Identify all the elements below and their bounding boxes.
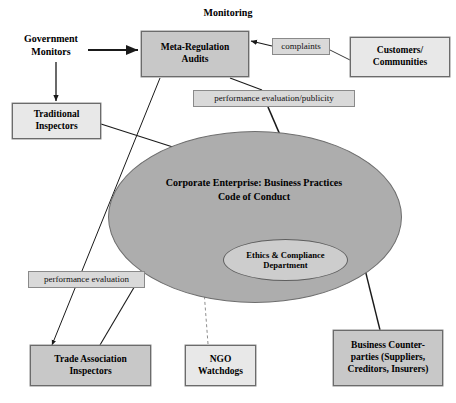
node-meta-regulation-audits[interactable]: Meta-RegulationAudits: [141, 31, 249, 77]
corporate-enterprise-label: Corporate Enterprise: Business Practices…: [120, 176, 388, 203]
ethics-compliance-department-ellipse: Ethics & ComplianceDepartment: [223, 239, 348, 281]
edge-label-performance-evaluation-publicity: performance evaluation/publicity: [193, 90, 355, 107]
edge-label-complaints: complaints: [272, 38, 330, 55]
diagram-title: Monitoring: [170, 4, 286, 20]
node-ngo-watchdogs[interactable]: NGOWatchdogs: [185, 345, 256, 386]
edge-meta-regulation-audits-to-corporate-enterprise-upper: [230, 78, 262, 90]
node-business-counterparties[interactable]: Business Counter-parties (Suppliers,Cred…: [333, 330, 443, 386]
edge-customers-to-complaints: [330, 50, 350, 60]
edge-complaints-to-meta-regulation-audits: [251, 41, 272, 46]
node-traditional-inspectors[interactable]: TraditionalInspectors: [12, 103, 101, 139]
node-trade-association-inspectors[interactable]: Trade AssociationInspectors: [30, 345, 151, 386]
edge-label-performance-evaluation: performance evaluation: [28, 271, 145, 288]
diagram-canvas: Corporate Enterprise: Business Practices…: [0, 0, 456, 403]
node-government-monitors: GovernmentMonitors: [12, 28, 90, 62]
node-customers-communities[interactable]: Customers/Communities: [350, 37, 450, 77]
ethics-compliance-department-label: Ethics & ComplianceDepartment: [246, 250, 324, 271]
